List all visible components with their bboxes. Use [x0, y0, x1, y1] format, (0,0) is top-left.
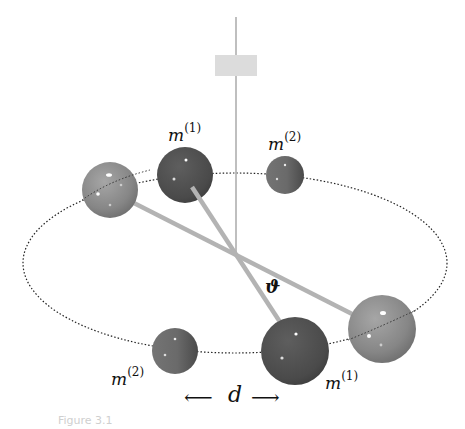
label-bottom-m2: m(2)	[111, 367, 144, 389]
sphere-bottom-m1	[261, 317, 329, 385]
distance-label-d: d	[228, 382, 242, 407]
label-base: m	[325, 373, 341, 393]
arrow-left-icon: ⟵	[184, 385, 213, 409]
label-superscript: (2)	[284, 130, 301, 144]
label-top-m2: m(2)	[268, 132, 301, 154]
label-superscript: (1)	[341, 369, 358, 383]
sphere-top-m1	[157, 147, 213, 203]
label-base: m	[168, 125, 184, 145]
sphere-right-light	[348, 295, 416, 363]
label-top-m1: m(1)	[168, 123, 201, 145]
mirror	[215, 55, 257, 76]
figure-caption: Figure 3.1	[58, 414, 113, 427]
sphere-top-m2	[266, 156, 304, 194]
sphere-bottom-m2	[152, 328, 198, 374]
label-bottom-m1: m(1)	[325, 371, 358, 393]
rod-light	[128, 200, 360, 318]
sphere-left-light	[82, 162, 150, 218]
label-superscript: (2)	[127, 365, 144, 379]
label-base: m	[111, 369, 127, 389]
label-base: m	[268, 134, 284, 154]
angle-label-theta: ϑ	[265, 276, 280, 297]
arrow-right-icon: ⟶	[251, 385, 280, 409]
label-superscript: (1)	[184, 121, 201, 135]
